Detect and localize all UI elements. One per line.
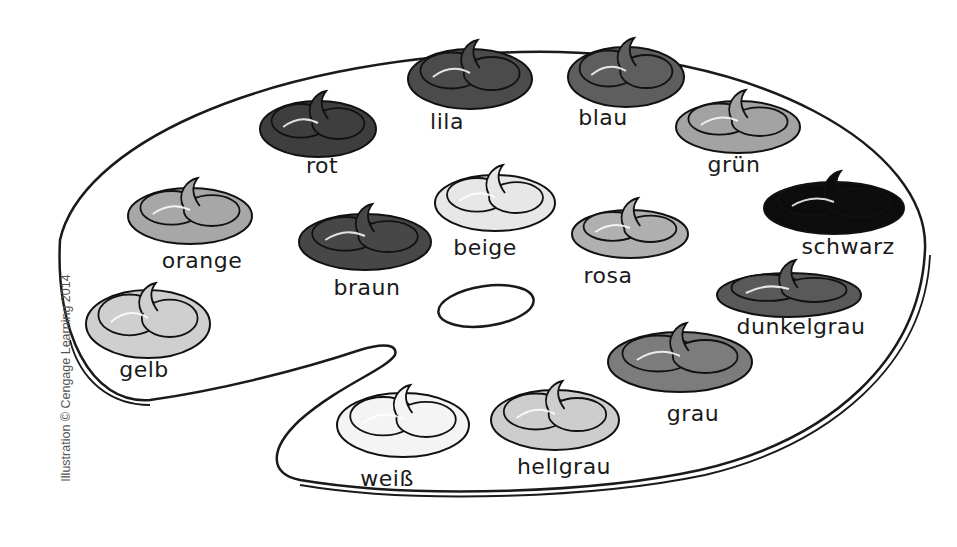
color-label-schwarz: schwarz — [801, 234, 894, 259]
color-label-blau: blau — [578, 105, 628, 130]
color-label-braun: braun — [334, 275, 401, 300]
palette-drawing — [0, 0, 957, 547]
color-label-rosa: rosa — [584, 263, 633, 288]
color-label-rot: rot — [306, 153, 338, 178]
color-label-grau: grau — [667, 401, 719, 426]
color-label-hellgrau: hellgrau — [517, 454, 611, 479]
color-label-weiß: weiß — [360, 466, 414, 491]
color-label-grün: grün — [708, 152, 761, 177]
color-label-dunkelgrau: dunkelgrau — [737, 314, 866, 339]
color-label-lila: lila — [430, 109, 464, 134]
paint-blob-lila — [408, 40, 532, 109]
palette-illustration: rotlilablaugrünschwarzdunkelgrauorangebr… — [0, 0, 957, 547]
paint-blob-blau — [568, 38, 684, 107]
color-label-beige: beige — [453, 235, 517, 260]
color-label-orange: orange — [162, 248, 242, 273]
color-label-gelb: gelb — [119, 357, 169, 382]
credit-text: Illustration © Cengage Learning 2014 — [59, 274, 73, 481]
